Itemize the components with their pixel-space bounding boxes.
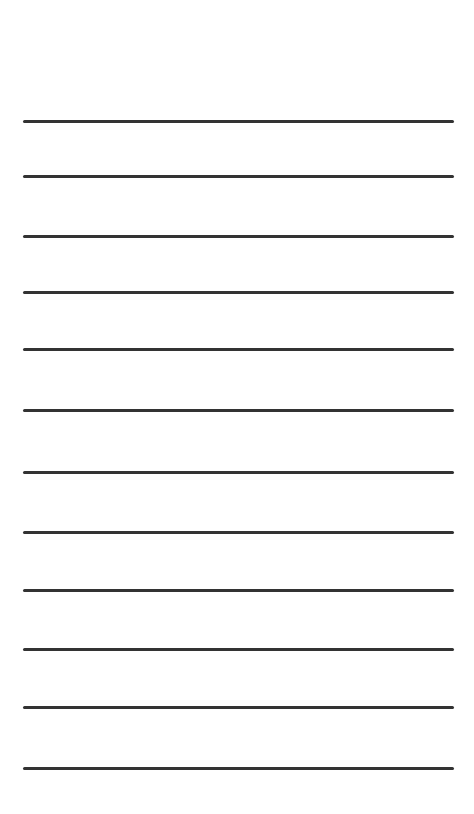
rule-line-11 — [23, 706, 454, 709]
rule-line-10 — [23, 648, 454, 651]
rule-line-7 — [23, 471, 454, 474]
rule-line-9 — [23, 589, 454, 592]
rule-line-4 — [23, 291, 454, 294]
rule-line-5 — [23, 348, 454, 351]
rule-line-12 — [23, 767, 454, 770]
rule-line-3 — [23, 235, 454, 238]
rule-line-8 — [23, 531, 454, 534]
rule-line-6 — [23, 409, 454, 412]
ruled-paper-sheet — [0, 0, 474, 814]
rule-line-1 — [23, 120, 454, 123]
rule-line-2 — [23, 175, 454, 178]
